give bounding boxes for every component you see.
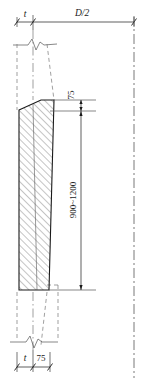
engineering-drawing-canvas: t D/2 75 — [0, 0, 149, 381]
offset-top-dimension-group: 75 — [50, 90, 96, 111]
top-break-zigzag — [28, 39, 44, 50]
right-edge-dashed-upper — [47, 44, 54, 100]
bottom-dimension-group: t 75 — [15, 350, 53, 372]
label-height-range: 900~1200 — [68, 181, 78, 218]
label-offset-bottom: 75 — [37, 353, 47, 363]
wall-section — [19, 100, 54, 290]
offset-arrow-top — [79, 100, 82, 104]
bottom-break-zigzag — [26, 336, 42, 348]
label-thickness-bottom: t — [24, 353, 27, 363]
height-dimension-group: 900~1200 — [49, 111, 96, 290]
label-half-diameter: D/2 — [74, 8, 90, 18]
label-thickness-top: t — [24, 9, 27, 19]
right-edge-dashed-lower — [41, 292, 47, 345]
height-arrow-bottom — [79, 285, 82, 290]
top-dimension-group: t D/2 — [15, 8, 137, 30]
label-offset-top: 75 — [66, 90, 76, 100]
height-arrow-top — [79, 111, 82, 116]
offset-arrow-bottom — [79, 107, 82, 111]
top-break-group — [13, 39, 57, 50]
top-break-line-right — [44, 44, 57, 45]
